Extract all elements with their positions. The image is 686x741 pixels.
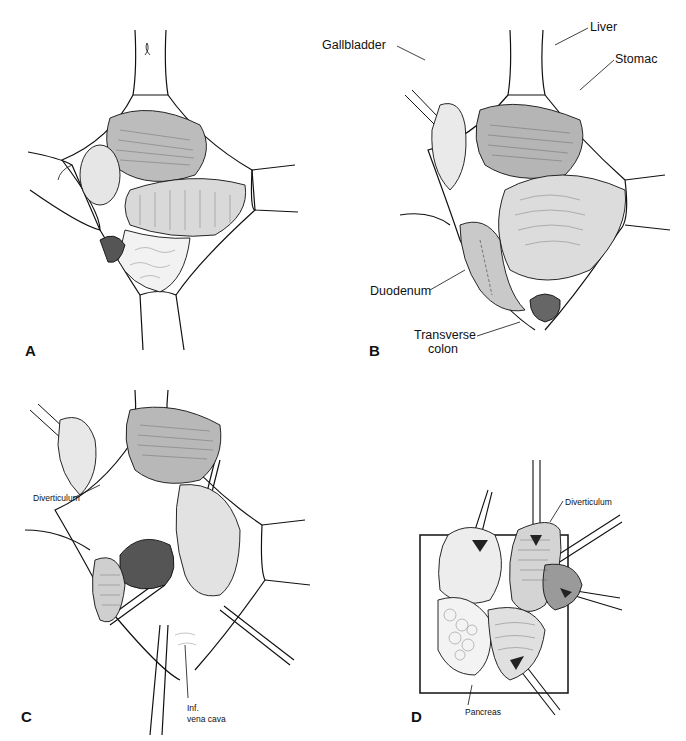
label-stomac: Stomac xyxy=(615,52,657,66)
label-pancreas: Pancreas xyxy=(465,707,501,717)
label-liver: Liver xyxy=(590,20,617,34)
panel-b-letter: B xyxy=(369,342,380,359)
label-vena-cava: vena cava xyxy=(187,714,226,724)
panel-d-illustration xyxy=(400,460,686,741)
panel-b: Gallbladder Liver Stomac Duodenum Transv… xyxy=(340,0,686,370)
label-transverse: Transverse xyxy=(414,328,476,342)
label-duodenum: Duodenum xyxy=(370,284,431,298)
panel-d-letter: D xyxy=(411,708,422,725)
panel-c: Diverticulum Inf. vena cava C xyxy=(0,380,330,741)
panel-a-illustration xyxy=(0,0,320,370)
panel-c-letter: C xyxy=(21,708,32,725)
label-diverticulum-c: Diverticulum xyxy=(33,493,80,503)
panel-d: Diverticulum Pancreas D xyxy=(400,460,686,741)
panel-a: A xyxy=(0,0,320,370)
panel-c-illustration xyxy=(0,380,330,741)
label-colon: colon xyxy=(428,342,458,356)
label-diverticulum-d: Diverticulum xyxy=(565,497,612,507)
label-inf: Inf. xyxy=(187,703,199,713)
panel-a-letter: A xyxy=(25,342,36,359)
label-gallbladder: Gallbladder xyxy=(322,38,386,52)
